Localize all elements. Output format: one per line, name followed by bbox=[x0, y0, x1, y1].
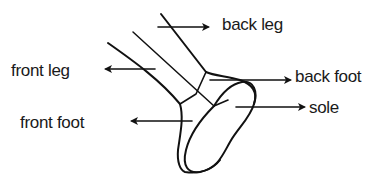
label-front-leg: front leg bbox=[11, 62, 70, 79]
label-sole: sole bbox=[309, 99, 339, 116]
front-ankle-band bbox=[180, 72, 206, 104]
sole-outline bbox=[185, 82, 256, 173]
front-leg-outline bbox=[108, 43, 180, 104]
label-back-leg: back leg bbox=[222, 16, 283, 33]
foot-diagram: back leg front leg back foot sole front … bbox=[0, 0, 386, 183]
label-front-foot: front foot bbox=[20, 114, 84, 131]
foot-drawing bbox=[0, 0, 386, 183]
label-back-foot: back foot bbox=[295, 68, 361, 85]
